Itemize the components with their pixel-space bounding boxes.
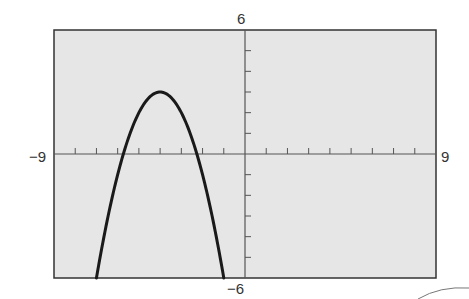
y-min-label: −6 [227,281,244,296]
x-min-label: −9 [29,149,46,164]
y-max-label: 6 [237,11,245,26]
graph-window [0,0,469,299]
x-max-label: 9 [441,149,449,164]
decorative-arc [418,288,469,299]
